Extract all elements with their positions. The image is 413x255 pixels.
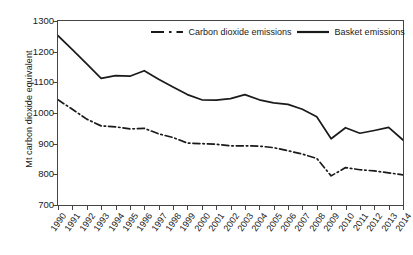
x-tick-mark	[87, 206, 88, 210]
legend-swatch-solid-icon	[296, 28, 330, 36]
chart-legend: Carbon dioxide emissions Basket emission…	[150, 26, 407, 37]
x-tick-mark	[346, 206, 347, 210]
legend-item-carbon-dioxide-emissions: Carbon dioxide emissions	[150, 26, 294, 37]
x-tick-mark	[374, 206, 375, 210]
x-tick-mark	[159, 206, 160, 210]
x-tick-mark	[187, 206, 188, 210]
x-tick-mark	[331, 206, 332, 210]
x-tick-mark	[72, 206, 73, 210]
x-tick-mark	[274, 206, 275, 210]
x-tick-mark	[389, 206, 390, 210]
x-tick-mark	[101, 206, 102, 210]
legend-label-carbon-dioxide-emissions: Carbon dioxide emissions	[187, 27, 294, 37]
legend-item-basket-emissions: Basket emissions	[296, 26, 407, 37]
y-tick-mark	[53, 113, 57, 114]
x-tick-mark	[302, 206, 303, 210]
legend-swatch-dash-dot-icon	[150, 28, 184, 36]
y-tick-mark	[53, 174, 57, 175]
x-tick-mark	[360, 206, 361, 210]
y-tick-mark	[53, 144, 57, 145]
x-tick-mark	[58, 206, 59, 210]
x-tick-mark	[173, 206, 174, 210]
x-tick-mark	[116, 206, 117, 210]
y-tick-mark	[53, 82, 57, 83]
x-tick-mark	[259, 206, 260, 210]
y-tick-mark	[53, 21, 57, 22]
x-tick-mark	[202, 206, 203, 210]
x-tick-mark	[130, 206, 131, 210]
y-tick-mark	[53, 205, 57, 206]
x-tick-mark	[216, 206, 217, 210]
x-tick-mark	[144, 206, 145, 210]
x-tick-mark	[288, 206, 289, 210]
x-tick-mark	[231, 206, 232, 210]
x-tick-mark	[245, 206, 246, 210]
y-tick-mark	[53, 52, 57, 53]
x-tick-mark	[403, 206, 404, 210]
legend-label-basket-emissions: Basket emissions	[333, 27, 407, 37]
x-tick-mark	[317, 206, 318, 210]
